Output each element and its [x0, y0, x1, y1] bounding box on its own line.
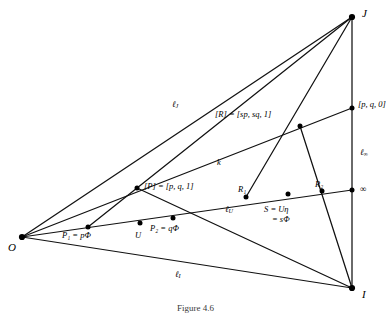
- label-point-s-line2: = sΦ: [272, 215, 290, 224]
- label-point-r2: R₂: [315, 180, 323, 189]
- figure-canvas: [0, 0, 391, 319]
- segment-O-I: [22, 237, 352, 288]
- segment-I-P: [137, 188, 352, 288]
- line-j-subscript: J: [176, 102, 179, 109]
- label-point-p2: P₂ = qΦ: [150, 224, 179, 233]
- line-infinity-subscript: ∞: [364, 150, 368, 157]
- label-line-j: ℓJ: [172, 100, 178, 109]
- point-dot-p2: [171, 216, 176, 221]
- label-line-i: ℓI: [175, 270, 181, 279]
- label-line-k: k: [217, 158, 221, 167]
- label-point-r1: R₁: [238, 185, 246, 194]
- point-dot-r2: [320, 189, 325, 194]
- point-dot-inf: [350, 188, 355, 193]
- vertex-dot-i: [349, 285, 355, 291]
- vertex-label-i: I: [362, 289, 366, 300]
- segment-J-R1: [246, 17, 352, 197]
- point-dot-r1: [244, 195, 249, 200]
- label-point-pq0: [p, q, 0]: [358, 100, 386, 109]
- point-dot-p1: [86, 225, 91, 230]
- projective-geometry-figure: O J I [P] = [p, q, 1] [R] = [sp, sq, 1] …: [0, 0, 391, 319]
- label-point-p: [P] = [p, q, 1]: [144, 182, 194, 191]
- label-line-infinity: ℓ∞: [360, 148, 368, 157]
- point-dot-p: [135, 186, 140, 191]
- label-point-r: [R] = [sp, sq, 1]: [215, 110, 271, 119]
- label-point-infinity: ∞: [360, 185, 366, 194]
- line-k-glyph: k: [217, 157, 221, 167]
- point-layer: [19, 14, 355, 291]
- line-u-subscript: U: [229, 207, 233, 214]
- line-i-subscript: I: [179, 272, 181, 279]
- vertex-label-o: O: [8, 242, 16, 253]
- point-dot-r: [298, 124, 303, 129]
- figure-caption: Figure 4.6: [0, 303, 391, 313]
- label-point-p1: P₁ = pΦ: [62, 231, 91, 240]
- vertex-dot-o: [19, 234, 25, 240]
- segment-layer: [22, 17, 352, 288]
- vertex-dot-j: [349, 14, 355, 20]
- vertex-label-j: J: [362, 8, 367, 19]
- label-line-u: ℓU: [225, 205, 233, 214]
- segment-I-R: [300, 126, 352, 288]
- point-dot-s: [286, 192, 291, 197]
- label-point-u: U: [135, 231, 141, 240]
- point-dot-pq0: [350, 106, 355, 111]
- label-point-s-line1: S = Uη: [264, 205, 289, 214]
- point-dot-u: [138, 221, 143, 226]
